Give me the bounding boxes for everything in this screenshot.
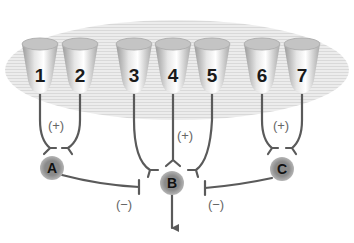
excitatory-label-b: (+)	[177, 128, 193, 143]
receptor-4-label: 4	[168, 65, 179, 86]
inhibitory-label-c: (−)	[208, 197, 224, 212]
receptor-6-label: 6	[257, 65, 268, 86]
svg-text:B: B	[167, 175, 177, 191]
excitatory-label-a: (+)	[48, 118, 64, 133]
node-c: C	[270, 157, 294, 181]
node-b: B	[160, 171, 184, 195]
receptor-3-label: 3	[129, 65, 140, 86]
receptor-7-label: 7	[297, 65, 308, 86]
receptive-field-diagram: 1 2 3 4 5 6 7 A B C (+	[0, 0, 354, 243]
receptor-2-label: 2	[75, 65, 86, 86]
svg-text:A: A	[47, 160, 57, 176]
svg-text:C: C	[277, 161, 287, 177]
node-a: A	[40, 156, 64, 180]
inhibitory-label-a: (−)	[116, 197, 132, 212]
receptor-5-label: 5	[207, 65, 218, 86]
excitatory-label-c: (+)	[273, 118, 289, 133]
receptor-1-label: 1	[35, 65, 46, 86]
